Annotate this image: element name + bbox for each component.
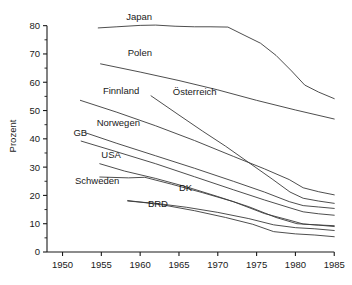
series-label-norwegen: Norwegen [97,117,140,128]
x-tick-label: 1980 [285,259,306,270]
x-tick-label: 1975 [246,259,267,270]
y-tick-label: 40 [29,133,40,144]
series-line-usa [100,164,334,226]
series-label-schweden: Schweden [75,175,119,186]
x-tick-label: 1985 [324,259,345,270]
series-label-polen: Polen [128,47,152,58]
series-labels: JapanPolenFinnlandÖsterreichNorwegenGBUS… [73,11,216,209]
chart-canvas: 01020304050607080 1950195519601965197019… [0,0,352,285]
y-tick-label: 80 [29,20,40,31]
series-label-gb: GB [73,127,87,138]
axis-titles: Prozent [7,119,18,152]
x-tick-label: 1965 [168,259,189,270]
series-label--sterreich: Österreich [173,86,217,97]
y-tick-label: 0 [35,246,40,257]
y-axis-title: Prozent [7,119,18,152]
y-tick-label: 50 [29,105,40,116]
x-tick-label: 1970 [207,259,228,270]
y-tick-label: 10 [29,218,40,229]
x-tick-label: 1950 [52,259,73,270]
series-label-usa: USA [101,149,121,160]
y-tick-label: 20 [29,190,40,201]
y-tick-label: 30 [29,162,40,173]
line-chart: 01020304050607080 1950195519601965197019… [0,0,352,285]
series-label-brd: BRD [148,198,168,209]
x-tick-label: 1955 [91,259,112,270]
series-lines [80,25,334,237]
series-label-dk: DK [179,182,193,193]
y-axis: 01020304050607080 [29,20,47,257]
y-tick-label: 60 [29,77,40,88]
series-label-japan: Japan [126,11,152,22]
x-tick-label: 1960 [130,259,151,270]
series-label-finnland: Finnland [103,85,139,96]
y-tick-label: 70 [29,48,40,59]
x-axis: 19501955196019651970197519801985 [47,252,345,270]
